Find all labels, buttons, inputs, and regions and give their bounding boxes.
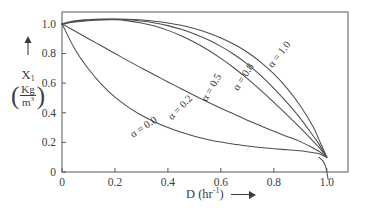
figure-container: 00.20.40.60.81.000.20.40.60.81.0α = 1.0α…: [0, 0, 365, 212]
x-axis-right-arrow-icon: [231, 189, 257, 199]
units-denominator-exponent: 3: [31, 95, 35, 103]
units-fraction: Kg m3: [19, 84, 36, 108]
x-tick-label: 0.8: [267, 176, 282, 188]
units-denominator: m3: [20, 95, 35, 108]
series-label: α = 0.8: [230, 61, 255, 92]
x-axis-label-group: D (hr-1): [186, 186, 257, 202]
series-label: α = 1.0: [266, 39, 293, 69]
y-axis-label-subscript: 1: [31, 74, 35, 83]
y-axis-label-symbol: X1: [2, 68, 54, 81]
x-tick-label: 1.0: [320, 176, 335, 188]
y-axis-label-base: X: [21, 67, 30, 82]
chart-canvas: 00.20.40.60.81.000.20.40.60.81.0α = 1.0α…: [0, 0, 365, 212]
units-numerator: Kg: [20, 84, 35, 95]
y-tick-label: 1.0: [42, 18, 57, 30]
series-label: α = 0.0: [128, 114, 159, 140]
x-axis-label-text: D (hr-1): [186, 186, 224, 202]
x-tick-label: 0.2: [108, 176, 123, 188]
left-paren: (: [11, 86, 19, 106]
y-axis-units: ( Kg m3 ): [2, 84, 54, 108]
y-axis-label-group: X1 ( Kg m3 ): [2, 36, 54, 108]
y-tick-label: 0: [50, 166, 56, 178]
series-label: α = 0.5: [199, 72, 223, 103]
right-paren: ): [37, 86, 45, 106]
y-tick-label: 0.2: [42, 136, 57, 148]
x-tick-label: 0.4: [161, 176, 176, 188]
y-axis-up-arrow-icon: [2, 36, 54, 56]
x-tick-label: 0: [59, 176, 65, 188]
series-label: α = 0.2: [166, 93, 195, 122]
